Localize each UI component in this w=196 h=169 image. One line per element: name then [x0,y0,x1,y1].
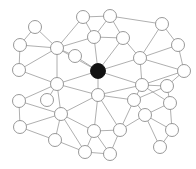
edge-layer [19,16,184,154]
graph-node[interactable] [104,148,117,161]
graph-node[interactable] [136,79,149,92]
network-graph-canvas [0,0,196,169]
graph-node[interactable] [134,52,147,65]
graph-node[interactable] [69,50,82,63]
graph-node[interactable] [13,64,26,77]
graph-node[interactable] [166,124,179,137]
graph-node[interactable] [139,109,152,122]
graph-node[interactable] [77,11,90,24]
graph-node[interactable] [156,18,169,31]
graph-node[interactable] [14,39,27,52]
node-layer [13,10,191,161]
graph-node[interactable] [172,39,185,52]
graph-node[interactable] [92,89,105,102]
graph-node[interactable] [154,141,167,154]
graph-node[interactable] [117,32,130,45]
graph-node[interactable] [41,94,54,107]
graph-node[interactable] [49,134,62,147]
graph-node[interactable] [13,95,26,108]
graph-node[interactable] [164,97,177,110]
graph-node-highlighted[interactable] [91,64,106,79]
graph-node[interactable] [104,10,117,23]
graph-node[interactable] [51,42,64,55]
graph-node[interactable] [178,65,191,78]
graph-node[interactable] [14,121,27,134]
graph-node[interactable] [114,124,127,137]
network-graph-figure [0,0,196,169]
graph-node[interactable] [29,21,42,34]
graph-node[interactable] [88,31,101,44]
graph-node[interactable] [55,108,68,121]
graph-node[interactable] [79,146,92,159]
graph-node[interactable] [128,94,141,107]
graph-edge [110,16,162,24]
graph-node[interactable] [161,80,174,93]
graph-node[interactable] [88,125,101,138]
graph-node[interactable] [51,78,64,91]
